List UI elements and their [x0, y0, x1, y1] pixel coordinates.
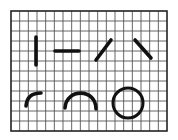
grid-diagram [0, 0, 178, 140]
circle-stroke [113, 88, 143, 118]
grid-lines [11, 11, 167, 131]
back-diagonal-stroke [135, 40, 151, 58]
forward-diagonal-stroke [96, 40, 111, 60]
